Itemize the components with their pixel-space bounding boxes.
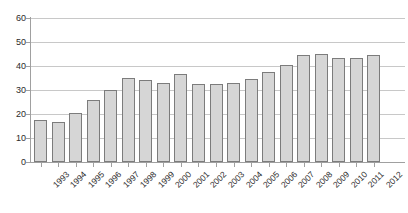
x-axis-tick-label: 2002: [209, 170, 229, 190]
x-axis-tick-label: 2005: [262, 170, 282, 190]
x-axis-tick-labels: 1993199419951996199719981999200020012002…: [0, 0, 408, 213]
x-axis-tick-label: 2000: [174, 170, 194, 190]
x-axis-tick-label: 1995: [86, 170, 106, 190]
x-axis-tick-label: 1998: [139, 170, 159, 190]
x-axis-tick-label: 1993: [51, 170, 71, 190]
x-axis-tick-label: 2012: [384, 170, 404, 190]
x-axis-tick-label: 2003: [227, 170, 247, 190]
x-axis-tick-label: 2001: [191, 170, 211, 190]
x-axis-tick-label: 1996: [104, 170, 124, 190]
x-axis-tick-label: 2008: [314, 170, 334, 190]
x-axis-tick-label: 2011: [367, 170, 386, 189]
x-axis-tick-label: 2004: [244, 170, 264, 190]
x-axis-tick-label: 1999: [156, 170, 176, 190]
bar-chart: 0102030405060 19931994199519961997199819…: [0, 0, 408, 213]
x-axis-tick-label: 2009: [332, 170, 352, 190]
x-axis-tick-label: 2006: [279, 170, 299, 190]
x-axis-tick-label: 1994: [69, 170, 89, 190]
x-axis-tick-label: 2007: [297, 170, 317, 190]
x-axis-tick-label: 1997: [121, 170, 141, 190]
